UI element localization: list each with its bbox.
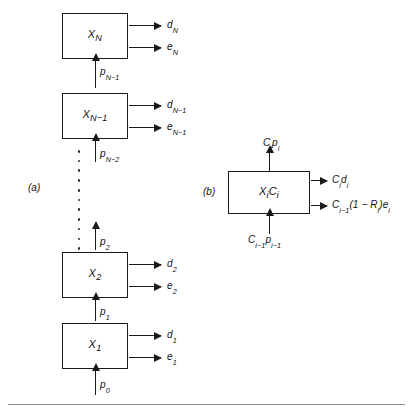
figure-canvas: (a) XN dN eN pN−1 XN−1 dN−1 bbox=[0, 0, 413, 418]
arrow-out-e-1 bbox=[129, 357, 161, 358]
label-p-2: p2 bbox=[100, 236, 110, 247]
arrow-in-p-n-1 bbox=[95, 60, 96, 88]
arrow-in-p-2 bbox=[95, 228, 96, 250]
arrow-out-d-1 bbox=[129, 335, 161, 336]
block-x-n-minus-1-label: XN−1 bbox=[82, 108, 107, 123]
label-d-n: dN bbox=[167, 19, 178, 30]
ellipsis-vertical bbox=[77, 150, 81, 250]
label-ci-di: Cidi bbox=[332, 174, 348, 185]
label-ci-1-pi-1: Ci−1pi−1 bbox=[248, 234, 281, 245]
arrow-out-e-2 bbox=[129, 286, 161, 287]
label-d-n-minus-1: dN−1 bbox=[167, 99, 186, 110]
label-ci-1-ri-ei: Ci−1(1 − Ri)ei bbox=[332, 199, 390, 210]
arrow-out-e-n-minus-1 bbox=[129, 127, 161, 128]
footer-divider bbox=[8, 404, 405, 405]
arrow-out-ci-pi bbox=[269, 152, 270, 171]
arrow-out-e-n bbox=[129, 47, 161, 48]
arrow-out-d-n-minus-1 bbox=[129, 105, 161, 106]
panel-a-tag: (a) bbox=[28, 182, 40, 193]
arrow-in-p-1 bbox=[95, 299, 96, 321]
label-e-2: e2 bbox=[167, 280, 177, 291]
label-p-0: p0 bbox=[100, 379, 110, 390]
label-p-n-2: pN−2 bbox=[100, 148, 119, 159]
label-e-n: eN bbox=[167, 41, 178, 52]
label-e-1: e1 bbox=[167, 351, 177, 362]
block-xi-ci-label: XiCi bbox=[259, 185, 279, 200]
panel-b-tag: (b) bbox=[203, 186, 215, 197]
arrow-out-ci-di bbox=[311, 180, 327, 181]
arrow-in-p-n-2 bbox=[95, 140, 96, 162]
block-x-2-label: X2 bbox=[89, 267, 102, 282]
arrow-out-d-2 bbox=[129, 264, 161, 265]
arrow-out-ci-1-ri-ei bbox=[311, 205, 327, 206]
label-p-n-1: pN−1 bbox=[100, 66, 119, 77]
label-e-n-minus-1: eN−1 bbox=[167, 121, 186, 132]
arrow-in-p-0 bbox=[95, 370, 96, 395]
block-x-1-label: X1 bbox=[89, 338, 102, 353]
label-d-1: d1 bbox=[167, 329, 177, 340]
label-p-1: p1 bbox=[100, 306, 110, 317]
label-d-2: d2 bbox=[167, 258, 177, 269]
arrow-out-d-n bbox=[129, 25, 161, 26]
arrow-in-ci-1-pi-1 bbox=[269, 215, 270, 234]
block-x-n-label: XN bbox=[88, 28, 102, 43]
